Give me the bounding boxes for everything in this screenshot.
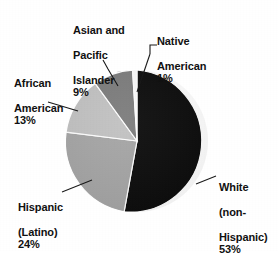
pie-label-native-line2: American: [157, 60, 206, 72]
pie-label-asian-and-pacific-islander: Asian and Pacific Islander 9%: [73, 11, 125, 111]
pie-label-african-percent: 13%: [14, 114, 63, 127]
pie-label-native-american: Native American 1%: [157, 22, 206, 97]
pie-label-white-line2: (non-: [219, 206, 246, 218]
pie-label-native-line1: Native: [157, 35, 189, 47]
pie-label-hispanic-latino: Hispanic (Latino) 24%: [18, 188, 63, 257]
pie-label-native-percent: 1%: [157, 72, 206, 85]
pie-label-hispanic-line1: Hispanic: [18, 201, 63, 213]
pie-label-asian-line2: Pacific: [73, 49, 108, 61]
pie-label-asian-line1: Asian and: [73, 24, 125, 36]
pie-label-african-line2: American: [14, 102, 63, 114]
pie-label-asian-line3: Islander: [73, 74, 114, 86]
pie-label-african-american: African American 13%: [14, 64, 63, 139]
pie-label-hispanic-line2: (Latino): [18, 226, 58, 238]
leader-line-native: [150, 45, 157, 54]
pie-label-hispanic-percent: 24%: [18, 238, 63, 251]
leader-line-white: [196, 176, 216, 184]
pie-label-white-non-hispanic: White (non- Hispanic) 53%: [219, 168, 268, 257]
pie-label-african-line1: African: [14, 77, 51, 89]
pie-label-asian-percent: 9%: [73, 86, 125, 99]
pie-label-white-percent: 53%: [219, 243, 268, 256]
pie-label-white-line1: White: [219, 181, 248, 193]
pie-label-white-line3: Hispanic): [219, 231, 268, 243]
